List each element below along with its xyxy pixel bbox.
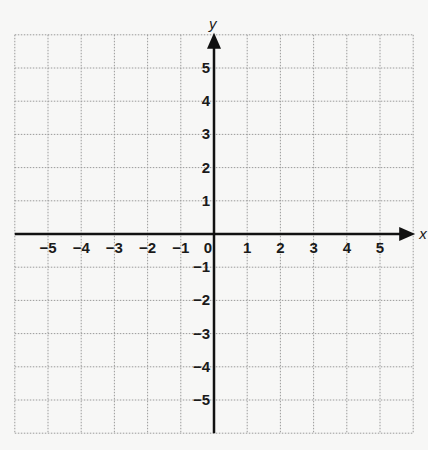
axes xyxy=(15,33,415,433)
x-tick-label: −2 xyxy=(139,239,156,256)
y-tick-label: −1 xyxy=(193,258,210,275)
y-tick-label: −4 xyxy=(193,358,211,375)
coordinate-plane: xy−5−4−3−2−1012345−5−4−3−2−112345 xyxy=(0,0,428,450)
y-tick-label: 2 xyxy=(202,159,210,176)
x-tick-label: 5 xyxy=(376,239,384,256)
x-tick-label: 1 xyxy=(243,239,251,256)
y-tick-label: −5 xyxy=(193,391,210,408)
y-axis-label: y xyxy=(208,15,218,32)
x-tick-label: −5 xyxy=(39,239,56,256)
x-tick-label: 3 xyxy=(309,239,317,256)
y-tick-label: 4 xyxy=(202,92,211,109)
x-tick-label: −4 xyxy=(73,239,91,256)
y-tick-label: −2 xyxy=(193,291,210,308)
x-tick-label: −3 xyxy=(106,239,123,256)
x-axis-label: x xyxy=(418,225,427,242)
y-tick-label: −3 xyxy=(193,325,210,342)
y-tick-label: 1 xyxy=(202,192,210,209)
x-tick-label: −1 xyxy=(172,239,189,256)
tick-labels: xy−5−4−3−2−1012345−5−4−3−2−112345 xyxy=(39,15,427,408)
x-tick-label: 4 xyxy=(343,239,352,256)
y-tick-label: 3 xyxy=(202,125,210,142)
x-tick-label: 0 xyxy=(204,239,212,256)
x-tick-label: 2 xyxy=(276,239,284,256)
y-tick-label: 5 xyxy=(202,59,210,76)
